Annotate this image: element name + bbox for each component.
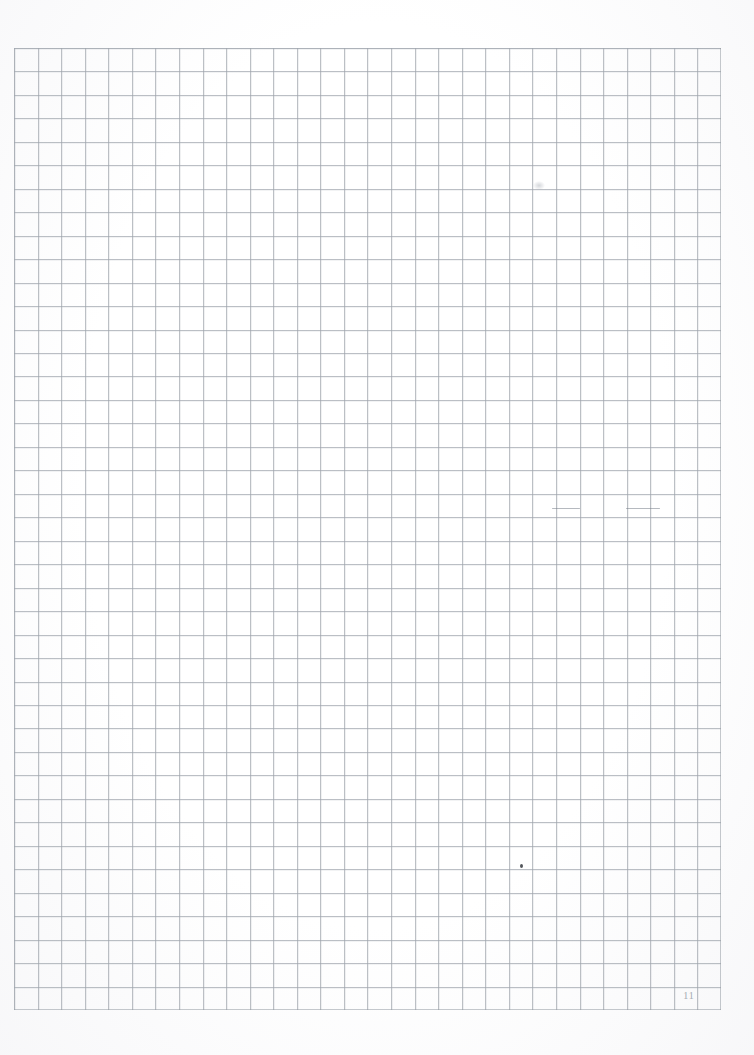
pencil-dot xyxy=(520,864,523,868)
grid-minor-lines-soft xyxy=(14,48,721,1010)
page-number: 11 xyxy=(683,989,695,1002)
pencil-stroke-left xyxy=(552,508,580,509)
grid-border-left xyxy=(14,48,15,1010)
grid-border-right xyxy=(720,48,721,1010)
grid-border-bottom xyxy=(14,1009,721,1010)
graph-paper-grid xyxy=(14,48,721,1010)
pencil-smudge-upper xyxy=(533,181,545,190)
notebook-page: 11 xyxy=(0,0,754,1055)
grid-border-top xyxy=(14,48,721,49)
pencil-stroke-right xyxy=(626,508,660,509)
